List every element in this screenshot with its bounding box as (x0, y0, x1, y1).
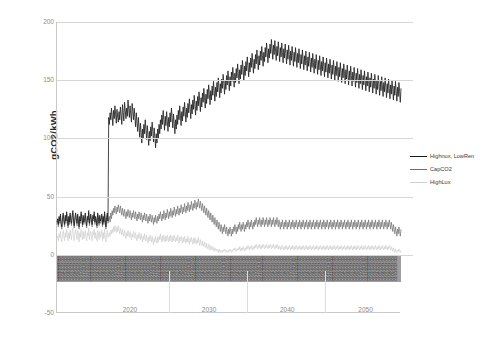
gridline-horizontal (57, 22, 413, 23)
legend-item[interactable]: CapCO2 (410, 163, 496, 175)
x-tick-label: 2050 (343, 306, 389, 313)
legend-label: Highnux, LowRen (430, 153, 474, 159)
legend-swatch-icon (410, 169, 427, 170)
y-tick-label: -50 (28, 310, 54, 317)
chart-legend: Highnux, LowRenCapCO2HighLux (410, 150, 496, 189)
chart-container: gCO2/kWh 200150100500-50 01/01/2018 00:0… (0, 0, 497, 337)
legend-swatch-icon (410, 156, 427, 157)
legend-item[interactable]: HighLux (410, 176, 496, 188)
x-tick-label: 2030 (186, 306, 232, 313)
category-label-band: 01/01/2018 00:0001/02/2018 00:0001/03/20… (57, 256, 401, 282)
legend-item[interactable]: Highnux, LowRen (410, 150, 496, 162)
gridline-vertical (325, 271, 326, 313)
category-tick-label: 01/10/2018 00:00 (395, 256, 399, 281)
y-tick-label: 50 (28, 194, 54, 201)
legend-label: HighLux (430, 179, 451, 185)
gridline-horizontal (57, 138, 413, 139)
gridline-horizontal (57, 255, 413, 256)
legend-label: CapCO2 (430, 166, 452, 172)
y-axis-tick-labels: 200150100500-50 (26, 0, 54, 337)
y-tick-label: 150 (28, 77, 54, 84)
y-tick-label: 100 (28, 135, 54, 142)
series-line (57, 199, 401, 236)
legend-swatch-icon (410, 182, 427, 183)
gridline-vertical (247, 271, 248, 313)
gridline-horizontal (57, 197, 413, 198)
series-line (57, 39, 401, 226)
gridline-horizontal (57, 80, 413, 81)
y-tick-label: 200 (28, 19, 54, 26)
x-tick-label: 2040 (264, 306, 310, 313)
gridline-vertical (169, 271, 170, 313)
y-tick-label: 0 (28, 252, 54, 259)
plot-area: 01/01/2018 00:0001/02/2018 00:0001/03/20… (56, 22, 400, 313)
x-tick-label: 2020 (107, 306, 153, 313)
